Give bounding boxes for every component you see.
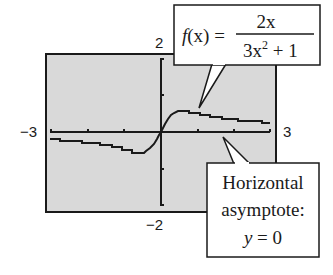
function-denominator-tail: + 1 <box>268 40 298 61</box>
asymptote-eq: = 0 <box>252 227 282 248</box>
ymax-label: 2 <box>155 34 163 51</box>
asymptote-var: y <box>242 227 253 248</box>
function-denominator-base: 3x <box>243 40 263 61</box>
asymptote-line-1: Horizontal <box>222 172 303 193</box>
xmax-label: 3 <box>283 123 291 140</box>
ymin-label: −2 <box>146 216 163 233</box>
xmin-label: −3 <box>20 123 37 140</box>
graph-figure: −3 3 2 −2 f(x) = 2x 3x2 + 1 Horizontal a… <box>0 0 333 275</box>
svg-text:y = 0: y = 0 <box>242 227 282 248</box>
svg-text:f(x) =: f(x) = <box>182 25 225 47</box>
svg-text:3x2 + 1: 3x2 + 1 <box>243 38 298 61</box>
function-numerator: 2x <box>257 11 277 32</box>
asymptote-line-2: asymptote: <box>221 199 304 220</box>
function-lhs-rest: (x) = <box>187 25 225 47</box>
